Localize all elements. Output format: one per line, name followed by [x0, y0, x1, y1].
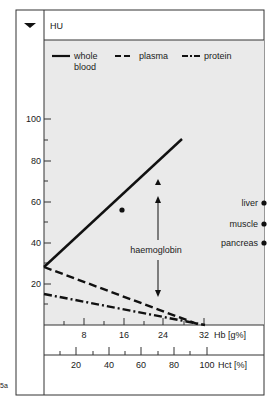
- y-tick-100: 100: [26, 114, 41, 124]
- hct-tick-100: 100: [199, 360, 214, 370]
- legend-whole-blood: whole: [73, 51, 98, 61]
- y-axis-unit-label: HU: [50, 21, 63, 31]
- hb-tick-24: 24: [158, 330, 168, 340]
- ref-muscle-dot: [261, 221, 266, 226]
- ref-pancreas-label: pancreas: [221, 238, 259, 248]
- y-tick-80: 80: [31, 156, 41, 166]
- hct-tick-40: 40: [104, 360, 114, 370]
- legend-protein: protein: [204, 51, 232, 61]
- hct-tick-60: 60: [136, 360, 146, 370]
- hb-axis-label: Hb [g%]: [214, 330, 246, 340]
- figure-label: 5a: [0, 382, 8, 389]
- legend-plasma: plasma: [139, 51, 168, 61]
- ref-liver-dot: [261, 200, 266, 205]
- hb-tick-16: 16: [119, 330, 129, 340]
- plot-area: [44, 40, 264, 325]
- ref-muscle-label: muscle: [229, 219, 258, 229]
- hct-tick-80: 80: [169, 360, 179, 370]
- ref-liver-label: liver: [241, 198, 258, 208]
- hct-tick-20: 20: [71, 360, 81, 370]
- ref-pancreas-dot: [261, 240, 266, 245]
- hb-tick-8: 8: [81, 330, 86, 340]
- chart-figure: HU whole blood plasma protein 100 80 60 …: [0, 0, 276, 402]
- haemoglobin-annotation: haemoglobin: [130, 245, 182, 255]
- y-tick-60: 60: [31, 197, 41, 207]
- hct-axis-label: Hct [%]: [218, 360, 247, 370]
- whole-blood-dot-marker: [119, 207, 124, 212]
- y-tick-20: 20: [31, 279, 41, 289]
- legend-whole-blood-2: blood: [74, 62, 96, 72]
- hb-tick-32: 32: [199, 330, 209, 340]
- y-tick-40: 40: [31, 238, 41, 248]
